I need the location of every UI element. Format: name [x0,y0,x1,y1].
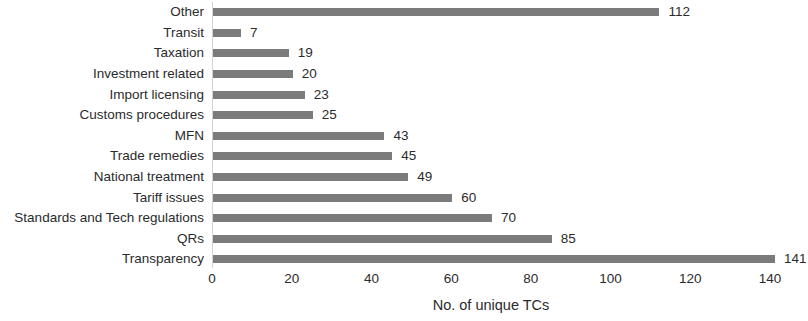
bar [213,8,659,16]
bar [213,132,384,140]
x-axis-tick: 0 [208,270,216,288]
category-label: MFN [0,128,204,144]
category-label: Other [0,4,204,20]
bar-and-value: 49 [213,167,432,188]
bar [213,152,392,160]
bar [213,214,492,222]
bar-value-label: 49 [417,169,432,185]
bar [213,235,552,243]
category-label: Investment related [0,66,204,82]
bar-and-value: 60 [213,187,476,208]
x-axis-tick: 60 [444,270,459,288]
bar-and-value: 45 [213,146,416,167]
bar-value-label: 7 [250,25,258,41]
bar-and-value: 141 [213,249,807,270]
category-label: National treatment [0,169,204,185]
bar-row: Standards and Tech regulations70 [0,208,808,229]
category-label: Transparency [0,251,204,267]
bar-value-label: 19 [298,45,313,61]
category-label: Taxation [0,45,204,61]
bar-value-label: 112 [668,4,690,20]
bar-row: Import licensing23 [0,84,808,105]
bar [213,111,313,119]
x-axis-tick-labels: 020406080100120140 [0,268,808,294]
bar-and-value: 25 [213,105,337,126]
bar [213,49,289,57]
bar [213,91,305,99]
bar-row: Tariff issues60 [0,187,808,208]
bar-value-label: 85 [561,231,576,247]
x-axis-tick: 80 [523,270,538,288]
category-label: QRs [0,231,204,247]
bar [213,29,241,37]
category-label: Trade remedies [0,148,204,164]
category-label: Import licensing [0,87,204,103]
bar-row: MFN43 [0,126,808,147]
bar-and-value: 7 [213,23,257,44]
bar-rows: Other112Transit7Taxation19Investment rel… [0,0,808,268]
x-axis-tick: 120 [679,270,702,288]
bar-value-label: 20 [302,66,317,82]
bar [213,194,452,202]
bar-and-value: 19 [213,43,313,64]
bar-row: Transit7 [0,23,808,44]
bar-value-label: 23 [314,87,329,103]
bar-and-value: 70 [213,208,516,229]
bar-row: Customs procedures25 [0,105,808,126]
bar-row: Other112 [0,2,808,23]
bar-and-value: 43 [213,126,408,147]
bar-and-value: 112 [213,2,690,23]
bar-value-label: 45 [401,148,416,164]
category-label: Standards and Tech regulations [0,210,204,226]
bar-chart: Other112Transit7Taxation19Investment rel… [0,0,808,321]
bar-row: Trade remedies45 [0,146,808,167]
x-axis-tick: 20 [284,270,299,288]
bar-and-value: 20 [213,64,317,85]
category-label: Tariff issues [0,190,204,206]
bar-row: National treatment49 [0,167,808,188]
bar-row: Transparency141 [0,249,808,270]
bar-row: QRs85 [0,229,808,250]
x-axis-tick: 40 [364,270,379,288]
bar-row: Investment related20 [0,64,808,85]
bar-value-label: 43 [393,128,408,144]
x-axis-title: No. of unique TCs [212,296,770,314]
bar [213,70,293,78]
bar-value-label: 60 [461,190,476,206]
bar-and-value: 85 [213,229,576,250]
bar-and-value: 23 [213,84,329,105]
bar-value-label: 70 [501,210,516,226]
bar-row: Taxation19 [0,43,808,64]
bar-value-label: 141 [784,251,807,267]
bar [213,255,775,263]
category-label: Transit [0,25,204,41]
bar [213,173,408,181]
x-axis-tick: 100 [599,270,622,288]
x-axis-tick: 140 [759,270,782,288]
bar-value-label: 25 [322,107,337,123]
category-label: Customs procedures [0,107,204,123]
